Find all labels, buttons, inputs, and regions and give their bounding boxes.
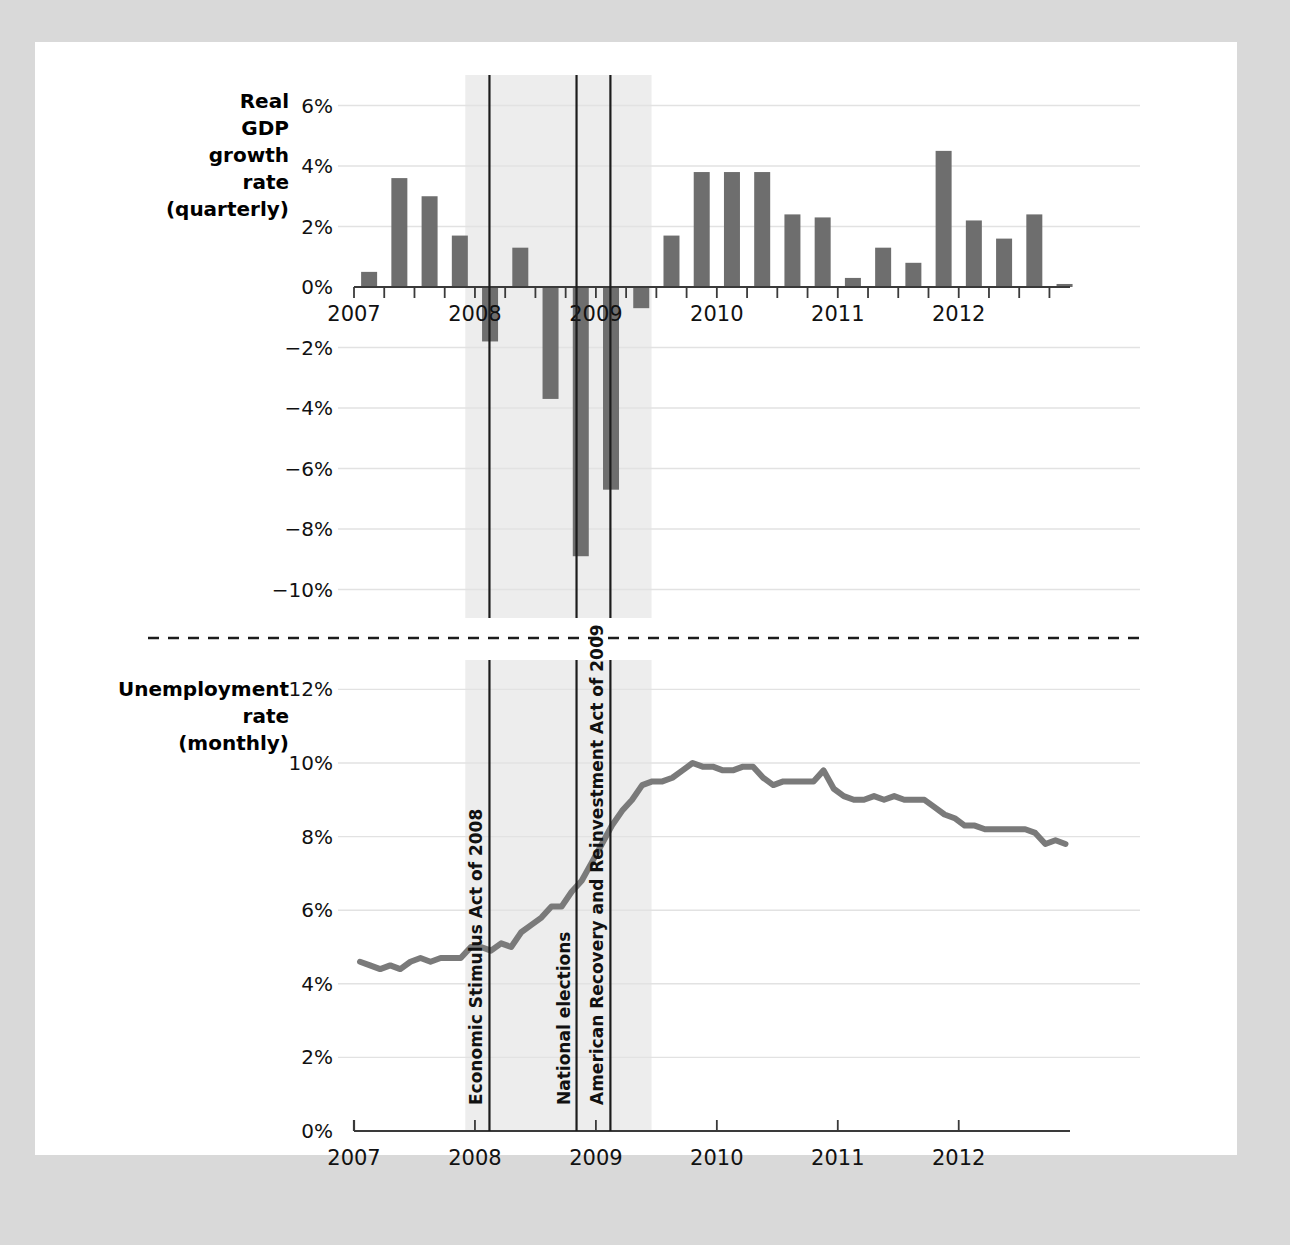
gdp-x-tick-label: 2007 — [327, 302, 380, 326]
event-annotation-label: American Recovery and Reinvestment Act o… — [587, 624, 607, 1105]
gdp-panel-title-line: Real — [240, 89, 289, 113]
page-background: 6%4%2%0%−2%−4%−6%−8%−10%2007200820092010… — [0, 0, 1290, 1245]
gdp-bar — [1026, 214, 1042, 287]
gdp-x-tick-label: 2011 — [811, 302, 864, 326]
gdp-bar — [573, 287, 589, 556]
figure-canvas: 6%4%2%0%−2%−4%−6%−8%−10%2007200820092010… — [0, 0, 1290, 1245]
unemployment-x-tick-label: 2009 — [569, 1146, 622, 1170]
gdp-bar — [784, 214, 800, 287]
gdp-y-tick-label: 0% — [301, 275, 333, 299]
gdp-bar — [815, 217, 831, 287]
gdp-bar — [391, 178, 407, 287]
gdp-y-tick-label: 6% — [301, 94, 333, 118]
gdp-bar — [633, 287, 649, 308]
gdp-y-tick-label: 2% — [301, 215, 333, 239]
gdp-bar — [543, 287, 559, 399]
gdp-x-tick-label: 2008 — [448, 302, 501, 326]
gdp-panel-title-line: (quarterly) — [166, 197, 289, 221]
unemployment-panel-title-line: rate — [243, 704, 289, 728]
unemployment-x-tick-label: 2010 — [690, 1146, 743, 1170]
gdp-bar — [724, 172, 740, 287]
gdp-bar — [845, 278, 861, 287]
gdp-bar — [663, 236, 679, 287]
gdp-bar — [905, 263, 921, 287]
unemployment-x-tick-label: 2007 — [327, 1146, 380, 1170]
gdp-bar — [966, 220, 982, 287]
gdp-bar — [875, 248, 891, 287]
gdp-y-tick-label: −6% — [285, 457, 334, 481]
gdp-x-tick-label: 2012 — [932, 302, 985, 326]
unemployment-panel-title-line: Unemployment — [118, 677, 289, 701]
unemployment-y-tick-label: 0% — [301, 1119, 333, 1143]
gdp-panel-title-line: growth — [209, 143, 289, 167]
gdp-y-tick-label: −10% — [272, 578, 333, 602]
gdp-bar — [361, 272, 377, 287]
gdp-bar — [452, 236, 468, 287]
unemployment-y-tick-label: 8% — [301, 825, 333, 849]
event-annotation-label: Economic Stimulus Act of 2008 — [466, 809, 486, 1105]
gdp-y-tick-label: −2% — [285, 336, 334, 360]
event-annotation-label: National elections — [554, 932, 574, 1105]
unemployment-x-tick-label: 2011 — [811, 1146, 864, 1170]
unemployment-y-tick-label: 4% — [301, 972, 333, 996]
unemployment-y-tick-label: 12% — [289, 677, 333, 701]
gdp-y-tick-label: 4% — [301, 154, 333, 178]
unemployment-panel-title-line: (monthly) — [178, 731, 289, 755]
gdp-panel-title-line: rate — [243, 170, 289, 194]
gdp-bar — [422, 196, 438, 287]
unemployment-y-tick-label: 2% — [301, 1045, 333, 1069]
gdp-bar — [936, 151, 952, 287]
unemployment-y-tick-label: 10% — [289, 751, 333, 775]
gdp-bar — [996, 239, 1012, 287]
unemployment-x-tick-label: 2008 — [448, 1146, 501, 1170]
gdp-bar — [512, 248, 528, 287]
unemployment-y-tick-label: 6% — [301, 898, 333, 922]
gdp-y-tick-label: −4% — [285, 396, 334, 420]
gdp-y-tick-label: −8% — [285, 517, 334, 541]
gdp-bar — [754, 172, 770, 287]
gdp-bar — [694, 172, 710, 287]
gdp-panel-title-line: GDP — [241, 116, 289, 140]
gdp-x-tick-label: 2010 — [690, 302, 743, 326]
unemployment-x-tick-label: 2012 — [932, 1146, 985, 1170]
